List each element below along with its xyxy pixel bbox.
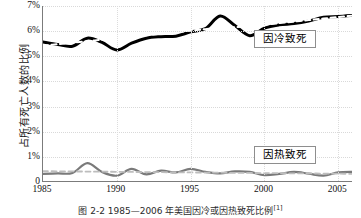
figure-caption: 图 2-2 1985—2006 年美国因冷或因热致死比例[1]	[0, 203, 361, 217]
vertical-gridline	[191, 6, 192, 181]
horizontal-gridline	[43, 6, 352, 7]
series-line-data	[43, 163, 352, 176]
x-axis-tick: 2000	[254, 184, 273, 194]
y-axis-tick: 3%	[14, 102, 40, 112]
caption-text: 图 2-2 1985—2006 年美国因冷或因热致死比例	[78, 206, 273, 216]
y-axis-tick: 5%	[14, 51, 40, 61]
legend-cold: 因冷致死	[254, 30, 316, 48]
legend-heat: 因热致死	[254, 146, 316, 164]
horizontal-gridline	[43, 81, 352, 82]
y-axis-tick: 7%	[14, 1, 40, 11]
x-axis-tick-labels: 19851990199520002005	[0, 184, 361, 200]
chart-figure: 占所有死亡人数的比例 7%6%5%4%3%2%1%0 1985199019952…	[0, 0, 361, 218]
y-axis-tick: 2%	[14, 127, 40, 137]
x-axis-tick: 1985	[33, 184, 52, 194]
y-axis-tick-labels: 7%6%5%4%3%2%1%0	[12, 0, 40, 190]
horizontal-gridline	[43, 56, 352, 57]
x-axis-tick: 1995	[180, 184, 199, 194]
horizontal-gridline	[43, 107, 352, 108]
horizontal-gridline	[43, 132, 352, 133]
legend-heat-label: 因热致死	[263, 148, 307, 160]
vertical-gridline	[338, 6, 339, 181]
legend-cold-label: 因冷致死	[263, 32, 307, 44]
x-axis-tick: 1990	[106, 184, 125, 194]
caption-reference: [1]	[273, 204, 282, 212]
vertical-gridline	[117, 6, 118, 181]
y-axis-tick: 6%	[14, 26, 40, 36]
y-axis-tick: 1%	[14, 152, 40, 162]
y-axis-tick: 4%	[14, 76, 40, 86]
x-axis-tick: 2005	[328, 184, 347, 194]
